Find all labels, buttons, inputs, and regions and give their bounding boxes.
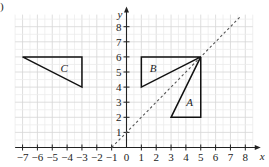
x-tick-label: −7 — [17, 151, 29, 163]
x-tick-label: 1 — [139, 151, 145, 163]
mirror-line — [112, 16, 241, 147]
y-tick-label: 2 — [116, 111, 122, 123]
y-tick-label: 4 — [116, 81, 122, 93]
x-tick-label: 3 — [168, 151, 174, 163]
y-tick-label: 3 — [116, 96, 122, 108]
x-tick-label: 0 — [124, 151, 130, 163]
triangle-label-a: A — [185, 96, 193, 108]
x-tick-label: 8 — [243, 151, 249, 163]
x-tick-label: 7 — [228, 151, 234, 163]
grid — [15, 15, 253, 148]
x-tick-label: 6 — [213, 151, 219, 163]
y-tick-label: 8 — [116, 21, 122, 33]
x-tick-label: −2 — [91, 151, 103, 163]
x-tick-label: 2 — [153, 151, 159, 163]
x-tick-label: −6 — [32, 151, 44, 163]
triangle-label-c: C — [60, 62, 68, 74]
x-tick-label: −3 — [76, 151, 88, 163]
y-tick-label: 5 — [116, 66, 122, 78]
x-tick-label: 4 — [183, 151, 189, 163]
x-tick-label: −1 — [106, 151, 118, 163]
x-tick-label: 5 — [198, 151, 204, 163]
y-axis-label: y — [117, 8, 123, 20]
triangle-label-b: B — [150, 62, 157, 74]
y-tick-label: 6 — [116, 51, 122, 63]
y-axis-arrow-icon — [124, 7, 129, 13]
x-axis-label: x — [259, 150, 265, 162]
x-tick-label: −5 — [46, 151, 58, 163]
coordinate-grid-chart: xy −7−6−5−4−3−2−101234567812345678 CBA — [0, 0, 269, 167]
y-tick-label: 1 — [116, 126, 122, 138]
dashed-mirror-line — [112, 16, 241, 147]
x-tick-label: −4 — [61, 151, 73, 163]
y-tick-label: 7 — [116, 36, 122, 48]
